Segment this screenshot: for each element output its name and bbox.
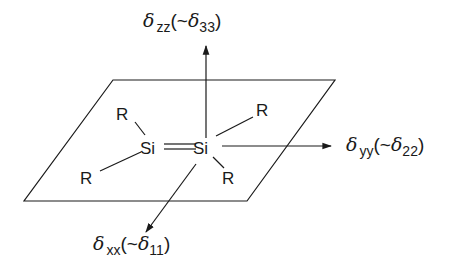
svg-text:δyy(~δ22): δyy(~δ22) [346, 133, 424, 159]
svg-text:δxx(~δ11): δxx(~δ11) [93, 232, 170, 258]
r-left-lower-label: R [80, 169, 92, 188]
delta-symbol: δ [346, 133, 357, 155]
yy-tensor-label: δyy(~δ22) [346, 133, 424, 159]
disilene-tensor-diagram: Si Si R R R R δzz(~δ33) δyy(~δ22) δxx(~δ… [0, 0, 454, 274]
xx-tensor-label: δxx(~δ11) [93, 232, 170, 258]
zz-tensor-label: δzz(~δ33) [143, 9, 221, 35]
molecular-plane [24, 80, 335, 201]
bond-right-lower [213, 157, 224, 168]
r-left-upper-label: R [116, 105, 128, 124]
r-right-lower-label: R [222, 169, 234, 188]
si-right-label: Si [193, 139, 208, 158]
xx-axis-arrow [146, 164, 196, 232]
delta-symbol: δ [143, 9, 154, 31]
bond-right-upper [216, 117, 253, 136]
svg-text:δzz(~δ33): δzz(~δ33) [143, 9, 221, 35]
r-right-upper-label: R [256, 101, 268, 120]
si-left-label: Si [140, 139, 155, 158]
delta-symbol: δ [93, 232, 104, 254]
bond-left-upper [135, 122, 145, 135]
bond-left-lower [100, 152, 141, 171]
